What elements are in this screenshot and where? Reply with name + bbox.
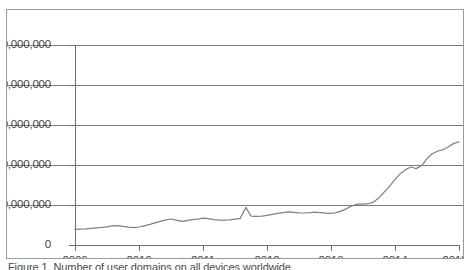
- y-tick-label-100000000: 100,000,000: [6, 159, 51, 170]
- figure-container: 250,000,000 200,000,000 150,000,000 100,…: [0, 0, 473, 270]
- x-tick-label-2013: 2013: [301, 254, 361, 259]
- x-tick-mark: [395, 245, 396, 251]
- x-tick-label-2014: 2014: [365, 254, 425, 259]
- x-tick-label-2015: 2015: [425, 254, 464, 259]
- y-tick-label-50000000: 50,000,000: [6, 199, 51, 210]
- x-tick-mark: [139, 245, 140, 251]
- x-tick-mark: [203, 245, 204, 251]
- chart-frame: 250,000,000 200,000,000 150,000,000 100,…: [6, 9, 464, 259]
- y-tick-label-250000000: 250,000,000: [6, 39, 51, 50]
- x-tick-label-2011: 2011: [173, 254, 233, 259]
- x-tick-mark: [331, 245, 332, 251]
- y-tick-label-150000000: 150,000,000: [6, 119, 51, 130]
- figure-caption: Figure 1. Number of user domains on all …: [8, 261, 463, 270]
- y-tick-label-200000000: 200,000,000: [6, 79, 51, 90]
- plot-area: [75, 45, 459, 245]
- y-tick-label-0: 0: [6, 239, 51, 250]
- x-tick-mark: [459, 245, 460, 251]
- x-tick-label-2010: 2010: [109, 254, 169, 259]
- x-tick-mark: [267, 245, 268, 251]
- x-tick-mark: [75, 245, 76, 251]
- series-line-total: [75, 142, 459, 230]
- x-tick-label-2009: 2009: [45, 254, 105, 259]
- series-line-chart: [75, 45, 459, 245]
- x-tick-label-2012: 2012: [237, 254, 297, 259]
